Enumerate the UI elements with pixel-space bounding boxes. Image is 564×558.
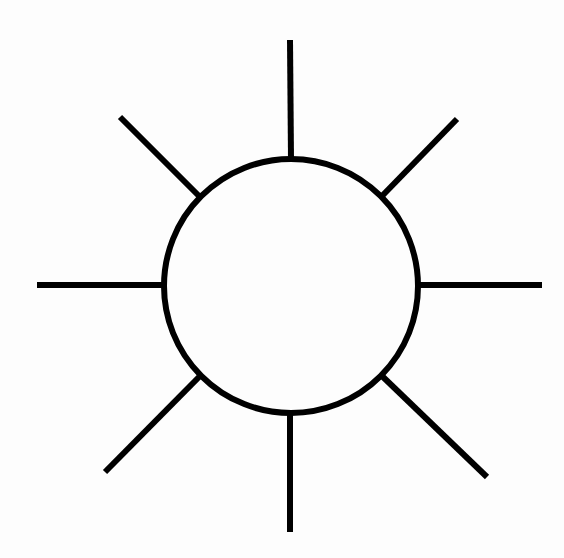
sun-symbol-figure	[0, 0, 564, 558]
drawing-canvas	[0, 0, 564, 558]
sun-disc-circle	[164, 159, 418, 413]
ray-north	[290, 40, 291, 159]
